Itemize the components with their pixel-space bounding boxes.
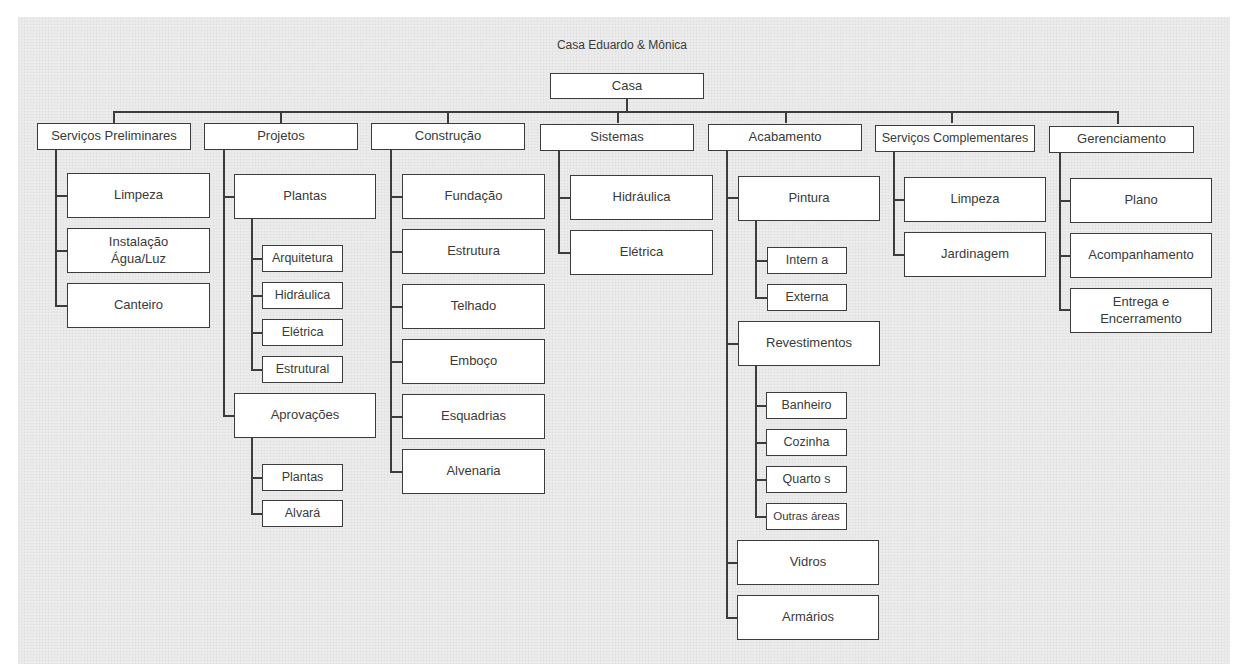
connector	[785, 111, 787, 123]
node-limpeza[interactable]: Limpeza	[67, 173, 210, 218]
connector	[251, 513, 262, 515]
node-servicos-preliminares[interactable]: Serviços Preliminares	[37, 123, 191, 150]
connector	[390, 361, 402, 363]
node-plantas[interactable]: Plantas	[234, 174, 376, 219]
connector	[1117, 111, 1119, 124]
connector	[755, 260, 767, 262]
node-projetos[interactable]: Projetos	[204, 123, 358, 150]
connector	[726, 343, 738, 345]
node-alvara[interactable]: Alvará	[262, 500, 343, 527]
connector	[390, 150, 392, 472]
node-estrutural[interactable]: Estrutural	[262, 356, 343, 383]
node-esquadrias[interactable]: Esquadrias	[402, 394, 545, 439]
node-emboco[interactable]: Emboço	[402, 339, 545, 384]
node-complementares-limpeza[interactable]: Limpeza	[904, 177, 1046, 222]
node-instalacao-agua-luz[interactable]: Instalação Água/Luz	[67, 228, 210, 273]
connector	[223, 415, 234, 417]
connector	[626, 98, 628, 112]
connector	[55, 150, 57, 306]
node-armarios[interactable]: Armários	[737, 595, 879, 640]
node-arquitetura[interactable]: Arquitetura	[262, 245, 343, 272]
connector	[1059, 153, 1061, 310]
connector	[447, 111, 449, 123]
connector	[390, 416, 402, 418]
connector	[251, 295, 262, 297]
connector	[251, 438, 253, 514]
connector	[280, 111, 282, 123]
diagram-canvas	[18, 17, 1230, 664]
node-interna[interactable]: Intern a	[767, 247, 847, 274]
node-quartos[interactable]: Quarto s	[766, 466, 847, 493]
connector-bus	[113, 111, 1118, 113]
node-pintura[interactable]: Pintura	[738, 176, 880, 221]
connector	[390, 196, 402, 198]
connector	[755, 297, 767, 299]
connector	[893, 152, 895, 255]
node-sistemas[interactable]: Sistemas	[540, 124, 694, 151]
diagram-title: Casa Eduardo & Mônica	[522, 38, 722, 52]
connector	[251, 477, 262, 479]
node-entrega-encerramento[interactable]: Entrega e Encerramento	[1070, 288, 1212, 333]
connector	[726, 151, 728, 618]
connector	[113, 111, 115, 123]
node-acompanhamento[interactable]: Acompanhamento	[1070, 233, 1212, 278]
node-servicos-complementares[interactable]: Serviços Complementares	[875, 125, 1035, 152]
node-aprovacoes-plantas[interactable]: Plantas	[262, 464, 343, 491]
node-outras-areas[interactable]: Outras áreas	[766, 503, 847, 530]
node-sistemas-hidraulica[interactable]: Hidráulica	[570, 175, 713, 220]
node-revestimentos[interactable]: Revestimentos	[738, 321, 880, 366]
connector	[558, 151, 560, 253]
node-telhado[interactable]: Telhado	[402, 284, 545, 329]
node-estrutura[interactable]: Estrutura	[402, 229, 545, 274]
connector	[1059, 255, 1070, 257]
node-root[interactable]: Casa	[550, 73, 704, 99]
node-plano[interactable]: Plano	[1070, 178, 1212, 223]
connector	[558, 197, 570, 199]
connector	[390, 306, 402, 308]
connector	[251, 332, 262, 334]
connector	[251, 258, 262, 260]
node-externa[interactable]: Externa	[767, 284, 847, 311]
connector	[251, 369, 262, 371]
node-eletrica[interactable]: Elétrica	[262, 319, 343, 346]
node-cozinha[interactable]: Cozinha	[766, 429, 847, 456]
node-jardinagem[interactable]: Jardinagem	[904, 232, 1046, 277]
connector	[558, 252, 570, 254]
connector	[390, 471, 402, 473]
node-fundacao[interactable]: Fundação	[402, 174, 545, 219]
node-aprovacoes[interactable]: Aprovações	[234, 393, 376, 438]
node-hidraulica[interactable]: Hidráulica	[262, 282, 343, 309]
node-construcao[interactable]: Construção	[371, 123, 525, 150]
connector	[1059, 200, 1070, 202]
connector	[223, 196, 234, 198]
node-banheiro[interactable]: Banheiro	[766, 392, 847, 419]
node-sistemas-eletrica[interactable]: Elétrica	[570, 230, 713, 275]
node-gerenciamento[interactable]: Gerenciamento	[1049, 126, 1194, 153]
connector	[390, 251, 402, 253]
connector	[617, 111, 619, 123]
connector	[951, 111, 953, 123]
node-canteiro[interactable]: Canteiro	[67, 283, 210, 328]
connector	[1059, 309, 1070, 311]
node-acabamento[interactable]: Acabamento	[708, 124, 862, 151]
node-alvenaria[interactable]: Alvenaria	[402, 449, 545, 494]
node-vidros[interactable]: Vidros	[737, 540, 879, 585]
connector	[726, 197, 738, 199]
connector	[223, 150, 225, 416]
